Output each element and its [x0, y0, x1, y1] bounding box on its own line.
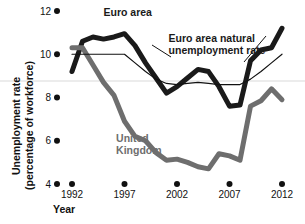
y-tick-label: 4 [45, 179, 51, 190]
x-axis-tick-labels: 19921997200220072012 [61, 189, 294, 200]
x-tick-label: 1997 [113, 189, 136, 200]
series-label-euro-area-natural-unemployment-rate: Euro area natural [169, 32, 255, 44]
series-label-euro-area-natural-unemployment-rate: unemployment rate [169, 44, 266, 56]
chart-svg: 4681012 19921997200220072012 Euro areaEu… [0, 0, 305, 224]
series-label-euro-area: Euro area [104, 6, 153, 18]
y-tick-label: 8 [45, 92, 51, 103]
y-axis-tick-labels: 4681012 [40, 6, 52, 190]
y-tick-label: 6 [45, 135, 51, 146]
x-tick-label: 2007 [218, 189, 241, 200]
y-tick-dot [54, 8, 60, 14]
x-axis-ticks [69, 181, 285, 187]
x-tick-label: 2012 [271, 189, 294, 200]
series-label-united-kingdom: Kingdom [116, 144, 162, 156]
x-axis-title: Year [53, 203, 75, 215]
x-tick-dot [122, 181, 128, 187]
unemployment-rate-chart: 4681012 19921997200220072012 Euro areaEu… [0, 0, 305, 224]
series-label-united-kingdom: United [116, 132, 149, 144]
x-tick-dot [227, 181, 233, 187]
x-tick-dot [279, 181, 285, 187]
y-tick-dot [54, 51, 60, 57]
y-tick-label: 10 [40, 49, 52, 60]
y-tick-label: 12 [40, 6, 52, 17]
y-tick-dot [54, 138, 60, 144]
y-axis-ticks [54, 8, 60, 187]
y-tick-dot [54, 181, 60, 187]
x-tick-label: 2002 [166, 189, 189, 200]
x-tick-label: 1992 [61, 189, 84, 200]
x-tick-dot [174, 181, 180, 187]
y-axis-title-line2: (percentage of workforce) [23, 61, 35, 190]
y-axis-title-line1: Unemployment rate [10, 77, 22, 175]
x-tick-dot [69, 181, 75, 187]
y-tick-dot [54, 95, 60, 101]
